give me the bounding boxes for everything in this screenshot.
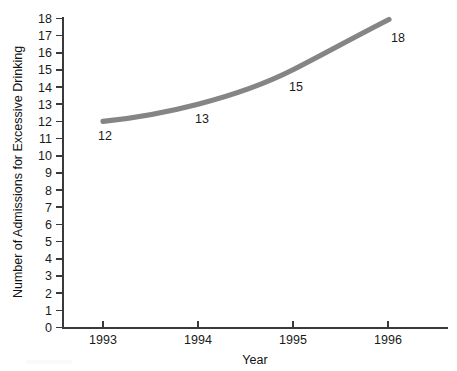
data-label-1996: 18 xyxy=(391,31,405,45)
y-tick-label: 6 xyxy=(45,218,52,232)
data-series-line xyxy=(103,20,389,122)
y-tick-label: 12 xyxy=(38,115,52,129)
x-tick-labels: 1993 1994 1995 1996 xyxy=(89,333,402,347)
x-tick-label: 1994 xyxy=(184,333,212,347)
y-tick-label: 13 xyxy=(38,98,52,112)
y-tick-label: 7 xyxy=(45,201,52,215)
y-tick-label: 8 xyxy=(45,184,52,198)
y-tick-label: 5 xyxy=(45,235,52,249)
y-tick-label: 4 xyxy=(45,252,52,266)
y-tick-label: 14 xyxy=(38,81,52,95)
y-tick-label: 1 xyxy=(45,304,52,318)
x-tick-label: 1995 xyxy=(279,333,307,347)
x-axis-title: Year xyxy=(242,353,267,367)
y-tick-label: 11 xyxy=(39,132,52,146)
y-tick-label: 0 xyxy=(45,321,52,335)
y-tick-label: 10 xyxy=(38,149,52,163)
x-tick-label: 1996 xyxy=(374,333,402,347)
y-tick-label: 9 xyxy=(45,166,52,180)
y-tick-label: 17 xyxy=(38,29,52,43)
x-tick-label: 1993 xyxy=(89,333,117,347)
y-tick-label: 16 xyxy=(38,46,52,60)
y-tick-label: 18 xyxy=(38,12,52,26)
data-label-1994: 13 xyxy=(195,112,209,126)
scan-artifact xyxy=(26,360,72,364)
y-tick-label: 2 xyxy=(45,287,52,301)
data-label-1993: 12 xyxy=(98,129,112,143)
y-tick-labels: 0 1 2 3 4 5 6 7 8 9 10 11 12 13 14 15 16… xyxy=(38,12,52,335)
data-label-1995: 15 xyxy=(289,80,303,94)
chart-figure: 0 1 2 3 4 5 6 7 8 9 10 11 12 13 14 15 16… xyxy=(0,0,457,371)
y-tick-label: 15 xyxy=(38,63,52,77)
line-chart-plot: 0 1 2 3 4 5 6 7 8 9 10 11 12 13 14 15 16… xyxy=(0,0,457,371)
y-tick-label: 3 xyxy=(45,269,52,283)
y-axis-title: Number of Admissions for Excessive Drink… xyxy=(11,46,25,298)
